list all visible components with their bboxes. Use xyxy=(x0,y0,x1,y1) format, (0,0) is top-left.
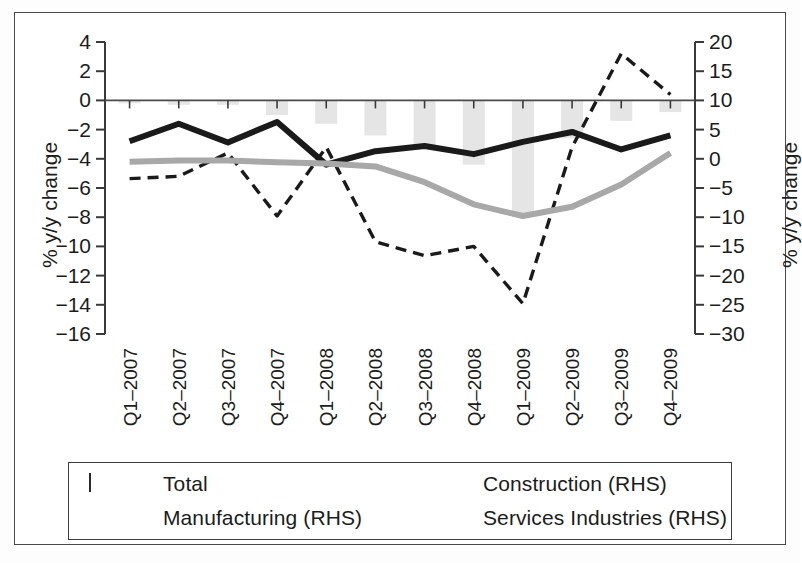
x-tick-label: Q3–2007 xyxy=(218,348,239,426)
x-tick-label: Q4–2007 xyxy=(267,348,288,426)
svg-text:0: 0 xyxy=(709,147,721,170)
svg-text:10: 10 xyxy=(709,88,732,111)
x-tick-label: Q2–2009 xyxy=(562,348,583,426)
svg-text:−2: −2 xyxy=(67,118,91,141)
legend-swatch-construction-icon xyxy=(409,474,471,494)
svg-text:−15: −15 xyxy=(709,234,745,257)
svg-text:2: 2 xyxy=(79,59,91,82)
right-axis-title: % y/y change xyxy=(778,142,802,268)
x-tick-label: Q4–2009 xyxy=(660,348,681,426)
svg-text:−30: −30 xyxy=(709,322,745,345)
legend-item-total: Total xyxy=(89,472,409,496)
legend-swatch-services-icon xyxy=(409,508,471,528)
svg-text:5: 5 xyxy=(709,118,721,141)
x-tick-label: Q1–2009 xyxy=(513,348,534,426)
svg-text:4: 4 xyxy=(79,30,91,53)
svg-text:20: 20 xyxy=(709,30,732,53)
x-tick-label: Q2–2007 xyxy=(169,348,190,426)
legend-item-services: Services Industries (RHS) xyxy=(409,506,727,530)
legend-swatch-manufacturing-icon xyxy=(89,508,151,528)
legend-item-manufacturing: Manufacturing (RHS) xyxy=(89,506,409,530)
chart-series-lines xyxy=(130,54,671,304)
svg-text:−4: −4 xyxy=(67,147,91,170)
legend-label-total: Total xyxy=(163,472,208,496)
x-tick-label: Q4–2008 xyxy=(464,348,485,426)
svg-text:−8: −8 xyxy=(67,205,91,228)
svg-text:15: 15 xyxy=(709,59,732,82)
chart-legend: Total Construction (RHS) Manufacturing (… xyxy=(68,462,732,540)
total-bar xyxy=(512,100,534,217)
legend-label-construction: Construction (RHS) xyxy=(483,472,667,496)
svg-text:0: 0 xyxy=(79,88,91,111)
svg-text:−14: −14 xyxy=(55,293,91,316)
x-tick-label: Q1–2007 xyxy=(120,348,141,426)
x-tick-label: Q1–2008 xyxy=(316,348,337,426)
series-line xyxy=(130,153,671,216)
legend-label-manufacturing: Manufacturing (RHS) xyxy=(163,506,362,530)
legend-swatch-total-icon xyxy=(89,474,151,494)
x-tick-label: Q3–2009 xyxy=(611,348,632,426)
svg-text:−6: −6 xyxy=(67,176,91,199)
svg-text:−20: −20 xyxy=(709,264,745,287)
chart-tick-labels: 420−2−4−6−8−10−12−14−1620151050−5−10−15−… xyxy=(55,30,744,426)
svg-text:−10: −10 xyxy=(709,205,745,228)
series-line xyxy=(130,54,671,304)
x-tick-label: Q2–2008 xyxy=(365,348,386,426)
left-axis-title: % y/y change xyxy=(38,142,62,268)
svg-text:−5: −5 xyxy=(709,176,733,199)
svg-text:−25: −25 xyxy=(709,293,745,316)
x-tick-label: Q3–2008 xyxy=(415,348,436,426)
legend-item-construction: Construction (RHS) xyxy=(409,472,727,496)
svg-text:−16: −16 xyxy=(55,322,91,345)
legend-label-services: Services Industries (RHS) xyxy=(483,506,727,530)
